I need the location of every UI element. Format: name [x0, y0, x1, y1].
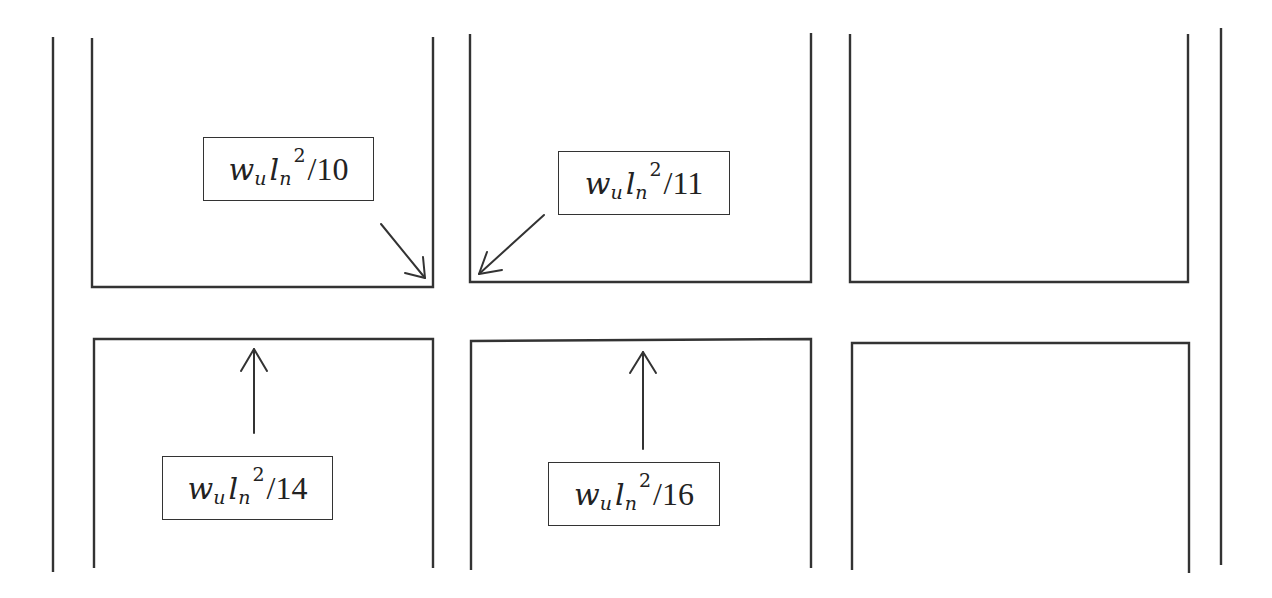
- moment-label-top-middle: wuln2/11: [558, 151, 730, 215]
- subscript-n: n: [635, 181, 647, 203]
- arrow-up-icon: [241, 349, 267, 433]
- panel-bottom-right: [852, 343, 1189, 573]
- symbol-l: l: [615, 477, 625, 512]
- moment-label-bottom-middle: wuln2/16: [548, 462, 720, 526]
- exponent: 2: [293, 144, 305, 166]
- symbol-w: w: [188, 471, 214, 506]
- subscript-u: u: [213, 486, 225, 508]
- symbol-l: l: [229, 471, 239, 506]
- subscript-n: n: [279, 167, 291, 189]
- divisor: /14: [267, 470, 308, 507]
- subscript-u: u: [610, 181, 622, 203]
- moment-label-bottom-left: wuln2/14: [162, 456, 333, 520]
- panel-top-right: [850, 34, 1188, 282]
- moment-label-top-left: wuln2/10: [203, 137, 374, 201]
- exponent: 2: [252, 463, 264, 485]
- subscript-u: u: [600, 492, 612, 514]
- symbol-w: w: [585, 166, 611, 201]
- panel-bottom-left: [94, 339, 433, 568]
- subscript-u: u: [254, 167, 266, 189]
- panel-bottom-middle: [471, 339, 811, 570]
- subscript-n: n: [238, 486, 250, 508]
- symbol-w: w: [229, 152, 255, 187]
- exponent: 2: [650, 158, 662, 180]
- symbol-l: l: [270, 152, 280, 187]
- arrow-up-icon: [630, 352, 656, 449]
- divisor: /16: [653, 476, 694, 513]
- subscript-n: n: [625, 492, 637, 514]
- symbol-w: w: [574, 477, 600, 512]
- arrow-down-right-icon: [381, 224, 425, 278]
- arrow-down-left-icon: [479, 215, 544, 274]
- exponent: 2: [639, 469, 651, 491]
- divisor: /10: [308, 151, 349, 188]
- divisor: /11: [664, 165, 704, 202]
- symbol-l: l: [626, 166, 636, 201]
